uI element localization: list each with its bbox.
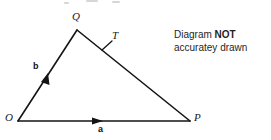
- vertex-label-P: P: [194, 112, 201, 123]
- triangle-diagram: [0, 0, 271, 140]
- point-T-tick-mark: [102, 41, 112, 50]
- note-line-2: accuratey drawn: [174, 41, 268, 54]
- not-to-scale-note: Diagram NOT accuratey drawn: [174, 28, 268, 54]
- note-line-1-prefix: Diagram: [174, 29, 215, 40]
- point-label-T: T: [112, 30, 118, 41]
- vertex-label-O: O: [5, 112, 13, 123]
- note-line-1-emphasis: NOT: [215, 29, 236, 40]
- vector-label-a: a: [98, 125, 103, 134]
- vector-label-b: b: [33, 62, 39, 71]
- vertex-label-Q: Q: [72, 11, 80, 22]
- note-line-1: Diagram NOT: [174, 28, 268, 41]
- diagram-screenshot: O Q P T a b Diagram NOT accuratey drawn: [0, 0, 271, 140]
